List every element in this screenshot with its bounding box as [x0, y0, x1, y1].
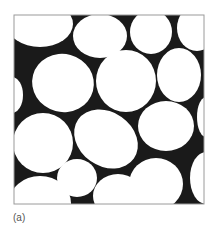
grain-3	[130, 10, 172, 54]
grain-8	[1, 77, 23, 113]
grain-4	[177, 5, 217, 51]
grain-1	[7, 1, 73, 47]
grain-packing-diagram	[0, 0, 219, 233]
grain-6	[96, 50, 156, 112]
grain-12	[197, 97, 215, 137]
grain-11	[138, 101, 194, 151]
grain-16	[129, 158, 183, 210]
grain-7	[157, 48, 201, 102]
figure-label: (a)	[13, 212, 25, 223]
